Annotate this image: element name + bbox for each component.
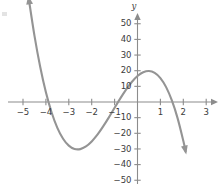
y-tick-label: 10 [100,82,132,91]
y-tick-label: −50 [100,176,132,185]
x-axis [8,99,218,105]
y-tick-label: 20 [100,66,132,75]
x-tick-label: 3 [196,108,216,117]
y-tick-label: −30 [100,145,132,154]
x-tick-label: 1 [150,108,170,117]
y-tick-label: 50 [100,19,132,28]
y-tick-label: 30 [100,51,132,60]
y-tick-label: −40 [100,160,132,169]
x-tick-label: −4 [36,108,56,117]
curve-arrowhead-lower-right [181,145,188,155]
x-tick-label: 2 [173,108,193,117]
y-axis-arrowhead [134,13,140,20]
y-axis-label: y [132,1,137,11]
y-axis [134,13,140,184]
y-tick-label: −20 [100,129,132,138]
y-tick-label: −10 [100,113,132,122]
y-tick-label: 40 [100,35,132,44]
graph-figure: y −5−4−3−2−1123 5040302010−10−20−30−40−5… [0,0,223,188]
x-tick-label: −5 [13,108,33,117]
curve-arrowhead-upper-left [26,0,33,5]
x-tick-label: −3 [59,108,79,117]
x-axis-arrowhead [211,99,218,105]
